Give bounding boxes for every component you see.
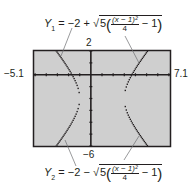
calculator-screen	[34, 51, 171, 147]
graph-canvas	[0, 0, 194, 191]
